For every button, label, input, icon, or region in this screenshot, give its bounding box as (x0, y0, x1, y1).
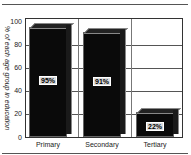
bar-tertiary: 22% (136, 112, 174, 137)
y-tick: 40 (8, 87, 22, 94)
y-tick: 20 (8, 110, 22, 117)
bar-value-label: 22% (146, 122, 164, 131)
x-category-label: Primary (36, 141, 60, 148)
y-tick: 100 (8, 18, 22, 25)
x-category-label: Secondary (85, 141, 118, 148)
gridline (131, 19, 132, 137)
gridline (78, 19, 79, 137)
bar-primary: 95% (29, 27, 67, 137)
y-tick: 60 (8, 64, 22, 71)
bar-value-label: 95% (39, 76, 57, 85)
plot-area: 95% 91% 22% (25, 18, 183, 138)
y-tick: 0 (8, 134, 22, 141)
y-tick: 80 (8, 41, 22, 48)
x-category-label: Tertiary (144, 141, 167, 148)
bar-value-label: 91% (93, 77, 111, 86)
bar-secondary: 91% (83, 32, 121, 137)
